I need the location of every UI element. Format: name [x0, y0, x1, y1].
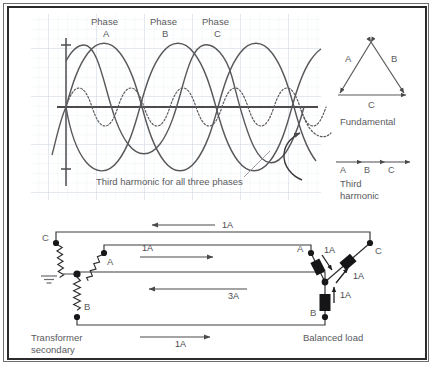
- load-caption: Balanced load: [303, 332, 363, 343]
- current-label-load-a: 1A: [324, 245, 335, 255]
- load-label-c: C: [375, 245, 382, 256]
- terminal-load-b: [322, 314, 328, 320]
- ground-icon: [41, 274, 77, 283]
- terminal-load-c: [367, 240, 373, 246]
- phase-c-line2: C: [214, 28, 221, 39]
- current-label-load-c: 1A: [353, 271, 364, 281]
- triangle-side-a: [340, 42, 371, 93]
- winding-a: [87, 255, 102, 281]
- resistor-b: [320, 294, 331, 311]
- third-harmonic-legend: A B C Third harmonic: [336, 162, 410, 201]
- th-caption-line2: harmonic: [340, 190, 379, 201]
- current-arrows: [140, 225, 247, 337]
- fundamental-label-c: C: [368, 99, 375, 110]
- source-caption-line1: Transformer: [31, 332, 82, 343]
- source-label-b: B: [84, 301, 90, 312]
- terminal-load-a: [308, 250, 314, 256]
- phase-b-line1: Phase: [150, 16, 177, 27]
- terminal-source-b: [74, 314, 80, 320]
- figure-frame: Phase A Phase B Phase C Thi: [0, 0, 436, 369]
- source-label-a: A: [107, 256, 114, 267]
- wire-neutral: [77, 272, 325, 282]
- phase-b-line2: B: [162, 28, 168, 39]
- third-harmonic-annotation: Third harmonic for all three phases: [96, 176, 243, 187]
- phase-a-line2: A: [103, 28, 110, 39]
- current-label-load-b: 1A: [340, 290, 351, 300]
- th-label-c: C: [388, 165, 395, 175]
- load-label-a: A: [297, 243, 304, 254]
- terminal-load-neutral: [322, 279, 329, 286]
- phase-c-line1: Phase: [202, 16, 229, 27]
- phase-a-line1: Phase: [91, 16, 118, 27]
- source-label-c: C: [42, 232, 49, 243]
- th-caption-line1: Third: [340, 178, 362, 189]
- wire-line-a: [104, 245, 311, 253]
- source-caption-line2: secondary: [31, 344, 75, 355]
- terminal-source-neutral: [73, 270, 80, 277]
- fundamental-caption: Fundamental: [340, 116, 395, 127]
- resistor-a: [310, 258, 325, 275]
- th-label-b: B: [364, 165, 370, 175]
- wire-line-c: [56, 232, 370, 243]
- winding-c: [57, 245, 64, 277]
- winding-b: [74, 277, 81, 310]
- terminal-source-c: [53, 240, 59, 246]
- transformer-secondary: [57, 245, 102, 310]
- load-label-b: B: [310, 307, 316, 318]
- current-label-line-c: 1A: [222, 220, 233, 230]
- fundamental-label-b: B: [391, 53, 397, 64]
- current-label-neutral: 3A: [228, 291, 239, 301]
- triangle-side-b: [371, 42, 404, 93]
- current-label-line-b: 1A: [175, 339, 186, 349]
- fundamental-label-a: A: [345, 53, 352, 64]
- fundamental-legend: A B C Fundamental: [338, 42, 406, 127]
- wire-line-b: [77, 317, 325, 325]
- th-label-a: A: [340, 165, 346, 175]
- current-label-line-a: 1A: [142, 243, 153, 253]
